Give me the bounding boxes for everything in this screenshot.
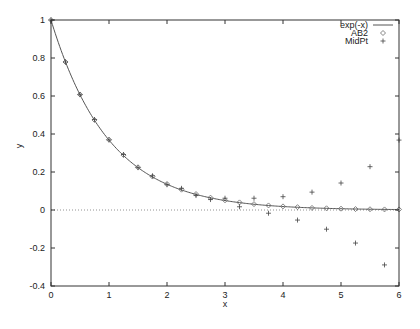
midpt-plus-marker	[368, 164, 373, 169]
midpt-plus-marker	[237, 204, 242, 209]
y-axis-ticks: -0.4-0.200.20.40.60.81	[29, 15, 399, 291]
x-tick-label: 6	[396, 290, 401, 300]
midpt-plus-marker	[281, 194, 286, 199]
midpt-plus-marker	[266, 211, 271, 216]
legend-diamond-icon	[381, 31, 386, 36]
y-tick-label: 1	[40, 15, 45, 25]
x-axis-label: x	[223, 299, 228, 309]
legend-label-midpt: MidPt	[345, 36, 369, 46]
x-axis-ticks: 0123456	[48, 20, 401, 300]
x-tick-label: 0	[48, 290, 53, 300]
midpt-plus-marker	[252, 196, 257, 201]
midpt-markers	[49, 18, 402, 268]
midpt-plus-marker	[324, 227, 329, 232]
y-tick-label: -0.2	[29, 243, 45, 253]
midpt-plus-marker	[339, 181, 344, 186]
x-tick-label: 2	[164, 290, 169, 300]
ab2-markers	[49, 18, 402, 212]
midpt-plus-marker	[63, 59, 68, 64]
midpt-plus-marker	[78, 92, 83, 97]
exp-curve	[51, 20, 399, 210]
y-tick-label: 0.6	[32, 91, 45, 101]
legend-plus-icon	[381, 39, 386, 44]
y-tick-label: -0.4	[29, 281, 45, 291]
y-tick-label: 0	[40, 205, 45, 215]
x-tick-label: 5	[338, 290, 343, 300]
plot-frame	[51, 20, 399, 286]
y-tick-label: 0.8	[32, 53, 45, 63]
chart-container: 0123456 -0.4-0.200.20.40.60.81 x y exp(-…	[0, 0, 420, 329]
legend: exp(-x) AB2 MidPt	[340, 20, 393, 46]
midpt-plus-marker	[295, 218, 300, 223]
x-tick-label: 4	[280, 290, 285, 300]
midpt-plus-marker	[353, 241, 358, 246]
x-tick-label: 1	[106, 290, 111, 300]
y-tick-label: 0.2	[32, 167, 45, 177]
midpt-plus-marker	[382, 262, 387, 267]
midpt-plus-marker	[310, 190, 315, 195]
y-axis-label: y	[14, 143, 24, 148]
y-tick-label: 0.4	[32, 129, 45, 139]
exp-curve-path	[51, 20, 399, 210]
plot-svg: 0123456 -0.4-0.200.20.40.60.81 x y exp(-…	[0, 0, 420, 329]
